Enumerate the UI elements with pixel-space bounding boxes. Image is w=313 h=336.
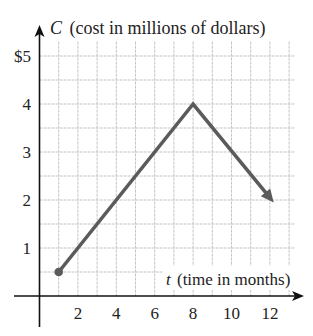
x-tick-label: 2 [74,304,83,323]
y-tick-label: 1 [23,239,32,258]
data-series [54,104,273,276]
x-tick-label: 6 [150,304,159,323]
y-tick-label: 3 [23,143,32,162]
x-tick-label: 10 [223,304,240,323]
y-axis-label: C (cost in millions of dollars) [50,18,266,39]
y-tick-label: $5 [14,47,31,66]
axis-labels: C (cost in millions of dollars) t (time … [50,18,304,290]
x-tick-label: 8 [189,304,198,323]
x-axis-label: t (time in months) [166,270,290,289]
y-tick-label: 4 [23,95,32,114]
start-point-dot [54,268,63,277]
x-tick-label: 4 [112,304,121,323]
cost-line [59,104,267,272]
cost-time-chart: 246810121234$5 C (cost in millions of do… [0,0,313,336]
x-tick-label: 12 [261,304,278,323]
y-tick-label: 2 [23,191,32,210]
grid [40,42,295,296]
